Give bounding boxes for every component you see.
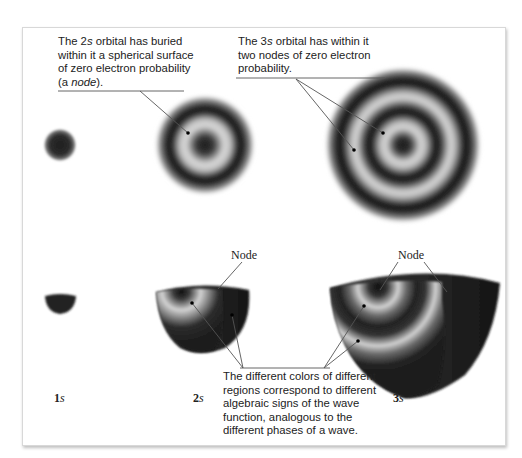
caption-3s-nodes: The 3s orbital has within it two nodes o… <box>238 35 388 76</box>
orbital-1s-hemisphere <box>45 294 76 314</box>
orbital-2s-sphere <box>155 95 255 195</box>
node-label-3s: Node <box>398 248 424 263</box>
label-3s: 3s <box>393 391 404 406</box>
caption-2s-node: The 2s orbital has buried within it a sp… <box>58 35 243 89</box>
label-1s: 1s <box>54 391 65 406</box>
orbital-3s-sphere <box>325 67 481 223</box>
orbital-2s-hemisphere <box>156 285 249 353</box>
label-2s: 2s <box>193 391 204 406</box>
caption-wave-phases: The different colors of different region… <box>223 370 403 438</box>
orbital-1s-sphere <box>43 128 77 162</box>
node-label-2s: Node <box>231 248 257 263</box>
